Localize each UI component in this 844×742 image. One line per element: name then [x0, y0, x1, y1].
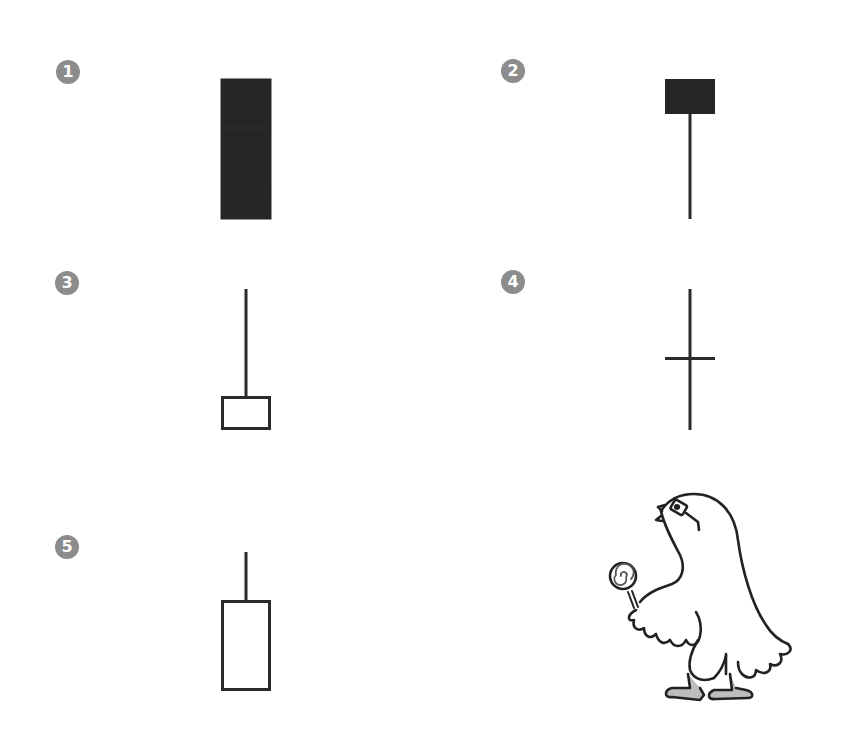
candle-2-body	[665, 79, 715, 114]
candle-5-body	[223, 602, 270, 690]
candle-4	[665, 289, 715, 430]
bird-with-lollipop-icon	[610, 494, 790, 700]
candle-3-body	[223, 398, 270, 429]
candle-5	[223, 552, 270, 690]
candle-2	[665, 79, 715, 219]
candle-1-body	[221, 79, 271, 219]
candle-3	[223, 289, 270, 429]
candle-1	[221, 79, 271, 219]
candlestick-diagram	[0, 0, 844, 742]
